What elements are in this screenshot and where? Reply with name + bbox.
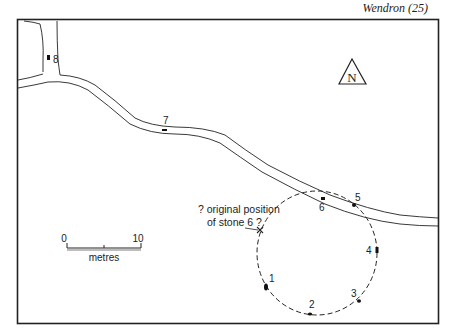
svg-text:8: 8: [53, 54, 59, 65]
annotation-line-1: ? original position: [198, 203, 280, 215]
scale-bar: 0 10 metres: [61, 233, 144, 263]
stone-3: 3: [351, 288, 361, 303]
svg-text:2: 2: [309, 299, 315, 310]
svg-text:7: 7: [163, 115, 169, 126]
scale-unit-label: metres: [89, 252, 120, 263]
svg-text:5: 5: [355, 192, 361, 203]
stones: 1 2 3 4 5 6 7 8: [47, 54, 379, 316]
north-label: N: [347, 70, 357, 85]
scale-end-label: 10: [132, 233, 144, 244]
stone-6: 6: [319, 197, 325, 213]
svg-text:1: 1: [269, 273, 275, 284]
stone-7: 7: [162, 115, 169, 131]
track: [18, 21, 438, 226]
annotation-line-2: of stone 6 ?: [207, 216, 262, 228]
stone-1: 1: [264, 273, 275, 291]
north-arrow-icon: N: [339, 59, 366, 85]
map-frame: [18, 20, 439, 324]
svg-text:4: 4: [366, 245, 372, 256]
svg-text:3: 3: [351, 288, 357, 299]
site-plan: N 1 2 3 4 5 6 7 8 ? original position of…: [0, 0, 450, 333]
scale-start-label: 0: [61, 233, 67, 244]
svg-text:6: 6: [319, 202, 325, 213]
stone-8: 8: [47, 54, 59, 65]
stone-2: 2: [308, 299, 315, 316]
